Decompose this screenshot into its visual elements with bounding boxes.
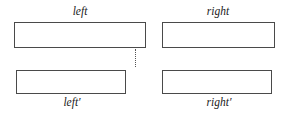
- label-right: right: [207, 6, 229, 18]
- block-diagram-figure: left right left′ right′: [0, 0, 287, 115]
- label-left-prime: left′: [63, 97, 80, 109]
- label-right-prime: right′: [207, 97, 232, 109]
- label-left: left: [73, 6, 88, 18]
- dotted-divider-icon: [135, 49, 136, 67]
- box-right-bottom: [162, 70, 272, 94]
- box-left-top: [14, 22, 146, 48]
- box-left-bottom: [16, 70, 126, 94]
- box-right-top: [162, 22, 275, 48]
